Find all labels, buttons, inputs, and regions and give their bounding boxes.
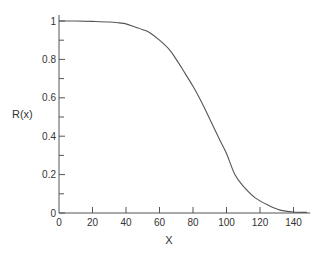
plot-area [59,21,307,212]
x-tick-label: 100 [218,217,235,228]
x-axis-label: X [165,234,173,246]
x-tick-label: 140 [285,217,302,228]
y-axis-label: R(x) [12,108,33,120]
x-tick-label: 0 [56,217,62,228]
x-tick-label: 80 [187,217,199,228]
chart: 00.20.40.60.81 020406080100120140 X R(x) [0,0,327,256]
data-line-r-x [59,21,307,212]
x-tick-label: 120 [252,217,269,228]
y-tick-label: 0.4 [42,131,56,142]
x-tick-label: 60 [154,217,166,228]
y-tick-label: 0.8 [42,54,56,65]
x-tick-label: 40 [120,217,132,228]
y-axis: 00.20.40.60.81 [42,15,65,219]
y-tick-label: 0.6 [42,92,56,103]
x-axis: 020406080100120140 [56,207,310,228]
y-tick-label: 1 [50,16,56,27]
y-tick-label: 0.2 [42,169,56,180]
x-tick-label: 20 [87,217,99,228]
